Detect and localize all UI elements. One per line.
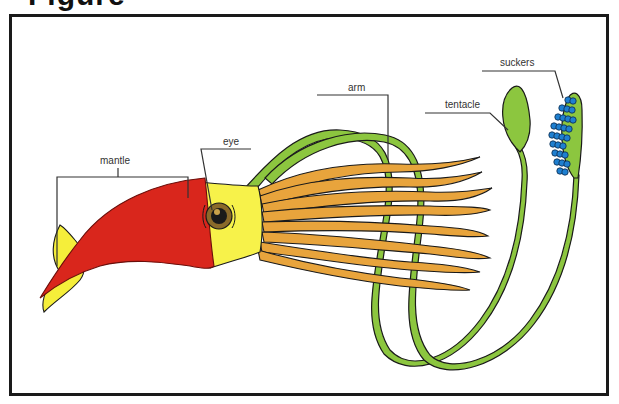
squid-diagram: mantle eye arm tentacle suckers — [0, 0, 619, 404]
tentacle-club — [503, 86, 530, 152]
label-tentacle-group: tentacle — [425, 99, 508, 130]
label-mantle: mantle — [100, 155, 130, 166]
label-eye: eye — [223, 136, 240, 147]
label-tentacle: tentacle — [445, 99, 480, 110]
label-suckers: suckers — [500, 57, 534, 68]
label-arm: arm — [348, 82, 365, 93]
